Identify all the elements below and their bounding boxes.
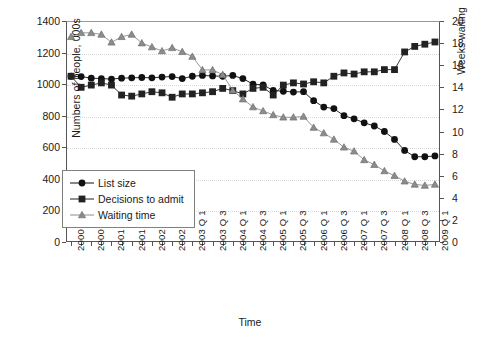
- x-tick-mark: [213, 242, 214, 246]
- x-tick-label: 2003 Q 1: [196, 210, 207, 251]
- y-tick-mark-right: [440, 87, 444, 88]
- x-tick-mark: [152, 242, 153, 246]
- legend-marker-triangle-icon: [69, 208, 95, 222]
- x-tick-label: 2006 Q 1: [318, 210, 329, 251]
- y-tick-label-left: 1000: [26, 78, 60, 90]
- y-tick-label-left: 0: [26, 236, 60, 248]
- y-tick-mark-right: [440, 109, 444, 110]
- x-tick-mark: [192, 242, 193, 246]
- x-tick-label: 2007 Q 1: [358, 210, 369, 251]
- y-tick-mark-right: [440, 198, 444, 199]
- x-tick-mark: [71, 242, 72, 246]
- y-tick-label-left: 800: [26, 110, 60, 122]
- y-tick-mark-right: [440, 132, 444, 133]
- y-tick-mark-left: [62, 84, 66, 85]
- x-tick-label: 2007 Q 3: [378, 210, 389, 251]
- y-tick-label-left: 400: [26, 173, 60, 185]
- y-tick-label-right: 2: [452, 214, 482, 226]
- y-tick-mark-right: [440, 21, 444, 22]
- y-tick-mark-right: [440, 176, 444, 177]
- y-tick-label-right: 8: [452, 148, 482, 160]
- y-tick-label-right: 0: [452, 236, 482, 248]
- legend-marker-circle-icon: [69, 176, 95, 190]
- x-tick-mark: [415, 242, 416, 246]
- y-tick-label-left: 200: [26, 204, 60, 216]
- gridline: [67, 148, 439, 149]
- legend: List sizeDecisions to admitWaiting time: [62, 170, 195, 228]
- y-tick-mark-right: [440, 43, 444, 44]
- x-tick-mark: [354, 242, 355, 246]
- legend-item: Decisions to admit: [69, 191, 184, 207]
- y-tick-mark-left: [62, 116, 66, 117]
- legend-marker-square-icon: [69, 192, 95, 206]
- y-tick-label-right: 4: [452, 192, 482, 204]
- x-tick-mark: [314, 242, 315, 246]
- x-tick-mark: [334, 242, 335, 246]
- y-tick-mark-left: [62, 242, 66, 243]
- x-tick-label: 2005 Q 3: [297, 210, 308, 251]
- x-tick-label: 2006 Q 3: [338, 210, 349, 251]
- legend-label: Waiting time: [98, 209, 155, 221]
- y-tick-label-right: 6: [452, 170, 482, 182]
- y-axis-left-title: Numbers of people, 000s: [70, 0, 82, 158]
- y-tick-label-left: 1400: [26, 15, 60, 27]
- x-tick-label: 2004 Q 3: [257, 210, 268, 251]
- gridline: [67, 85, 439, 86]
- gridline: [67, 54, 439, 55]
- x-tick-label: 2004 Q 1: [237, 210, 248, 251]
- chart-container: 0200400600800100012001400 02468101214161…: [0, 0, 503, 341]
- y-tick-label-right: 12: [452, 103, 482, 115]
- y-tick-label-right: 10: [452, 126, 482, 138]
- x-axis-title: Time: [180, 316, 320, 328]
- x-tick-mark: [172, 242, 173, 246]
- x-tick-mark: [91, 242, 92, 246]
- x-tick-mark: [273, 242, 274, 246]
- x-tick-label: 2008 Q 3: [419, 210, 430, 251]
- legend-item: Waiting time: [69, 207, 184, 223]
- y-tick-mark-left: [62, 147, 66, 148]
- y-axis-right-title: Weeks waiting: [455, 0, 467, 96]
- x-tick-label: 2005 Q 1: [277, 210, 288, 251]
- x-tick-mark: [293, 242, 294, 246]
- x-tick-mark: [132, 242, 133, 246]
- x-tick-label: 2003 Q 3: [217, 210, 228, 251]
- legend-item: List size: [69, 175, 184, 191]
- legend-label: List size: [98, 177, 136, 189]
- x-tick-mark: [395, 242, 396, 246]
- x-tick-label: 2009 Q 1: [439, 210, 450, 251]
- y-tick-mark-left: [62, 21, 66, 22]
- x-tick-mark: [233, 242, 234, 246]
- x-tick-mark: [374, 242, 375, 246]
- x-tick-label: 2008 Q 1: [399, 210, 410, 251]
- y-tick-mark-right: [440, 65, 444, 66]
- x-tick-mark: [435, 242, 436, 246]
- gridline: [67, 117, 439, 118]
- y-tick-label-left: 600: [26, 141, 60, 153]
- x-tick-mark: [111, 242, 112, 246]
- legend-label: Decisions to admit: [98, 193, 184, 205]
- x-tick-mark: [253, 242, 254, 246]
- y-tick-mark-right: [440, 154, 444, 155]
- y-tick-mark-left: [62, 53, 66, 54]
- y-tick-label-left: 1200: [26, 47, 60, 59]
